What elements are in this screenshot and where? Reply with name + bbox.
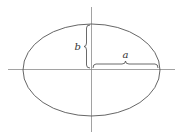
label-b: b [75,41,81,52]
brace-b [84,25,90,68]
label-a: a [123,49,129,60]
brace-a [93,61,158,68]
ellipse-diagram: b a [0,0,180,138]
